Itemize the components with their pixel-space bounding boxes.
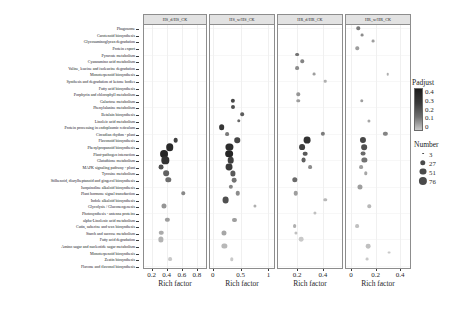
gridline-horizontal — [278, 107, 342, 108]
data-point — [158, 237, 163, 242]
y-axis-tick — [136, 69, 139, 70]
number-legend-label: 76 — [429, 177, 436, 184]
y-axis-tick — [136, 194, 139, 195]
gridline-horizontal — [210, 213, 274, 214]
y-axis-tick — [136, 240, 139, 241]
facet-panel-title: HS_w/HS_CK — [209, 14, 275, 25]
y-axis-label: Flavonoid biosynthesis — [98, 138, 135, 144]
kegg-enrichment-dotplot: PhagosomeCarotenoid biosynthesisGlycosam… — [0, 0, 463, 313]
gridline-vertical — [376, 25, 377, 268]
x-axis-tick-label: 0.2 — [371, 271, 380, 279]
data-point — [324, 198, 327, 201]
data-point — [362, 158, 367, 163]
gridline-vertical — [351, 25, 352, 268]
y-axis-label: Linoleic acid metabolism — [95, 119, 135, 125]
x-axis-title: Rich factor — [143, 279, 207, 288]
data-point — [182, 191, 185, 194]
data-point — [225, 132, 229, 136]
data-point — [362, 144, 368, 150]
gridline-horizontal — [210, 107, 274, 108]
x-axis: 00.20.4Rich factor — [345, 269, 411, 289]
y-axis-tick — [136, 234, 139, 235]
gridline-vertical — [323, 25, 324, 268]
y-axis-tick — [136, 75, 139, 76]
padjust-tick-label: 0 — [425, 124, 429, 131]
number-legend-item: 3 — [414, 149, 462, 158]
y-axis-tick — [136, 122, 139, 123]
facet-panel-title: HS_d/HS_CK — [143, 14, 207, 25]
number-legend-item: 27 — [414, 158, 462, 167]
data-point — [293, 224, 297, 228]
y-axis-label: Phenylpropanoid biosynthesis — [87, 145, 135, 151]
gridline-vertical — [182, 25, 183, 268]
gridline-horizontal — [278, 28, 342, 29]
data-point — [360, 137, 366, 143]
data-point — [387, 73, 390, 76]
y-axis-tick — [136, 267, 139, 268]
x-axis: 0.20.40.60.8Rich factor — [143, 269, 207, 289]
y-axis-label: Glycolysis / Gluconeogenesis — [88, 204, 135, 210]
y-axis-tick — [136, 102, 139, 103]
x-axis-title: Rich factor — [345, 279, 411, 288]
y-axis-tick — [136, 188, 139, 189]
y-axis-tick — [136, 108, 139, 109]
data-point — [383, 132, 387, 136]
gridline-horizontal — [278, 134, 342, 135]
x-axis-tick-label: 0 — [349, 271, 353, 279]
number-legend-dot — [422, 153, 424, 155]
plot-area — [209, 25, 275, 269]
data-point — [228, 184, 232, 188]
y-axis-tick — [136, 181, 139, 182]
y-axis-label: Galactose metabolism — [100, 99, 135, 105]
data-point — [159, 230, 164, 235]
y-axis-tick — [136, 128, 139, 129]
data-point — [303, 151, 308, 156]
padjust-colorbar — [414, 88, 423, 131]
gridline-horizontal — [278, 160, 342, 161]
data-point — [221, 230, 226, 235]
y-axis-label: MAPK signaling pathway - plant — [82, 165, 135, 171]
y-axis-tick — [136, 161, 139, 162]
y-axis-tick — [136, 155, 139, 156]
data-point — [225, 163, 232, 170]
data-point — [294, 191, 299, 196]
gridline-vertical — [241, 25, 242, 268]
x-axis-tick-label: 0.4 — [318, 271, 327, 279]
y-axis-label: Monoterpenoid biosynthesis — [90, 72, 135, 78]
number-legend-dot — [419, 176, 427, 184]
x-axis-title: Rich factor — [209, 279, 275, 288]
y-axis-label: Starch and sucrose metabolism — [86, 231, 135, 237]
data-point — [357, 184, 362, 189]
y-axis-tick — [136, 260, 139, 261]
data-point — [232, 178, 237, 183]
data-point — [308, 165, 312, 169]
y-axis-label: Tyrosine metabolism — [102, 171, 135, 177]
data-point — [301, 60, 304, 63]
number-legend-item: 51 — [414, 167, 462, 176]
facet-panel-title: HR_d/HR_CK — [277, 14, 343, 25]
data-point — [235, 138, 241, 144]
number-legend-label: 51 — [429, 168, 436, 175]
y-axis-label: Flavone and flavonol biosynthesis — [81, 264, 135, 270]
data-point — [299, 144, 305, 150]
data-point — [232, 218, 236, 222]
data-point — [368, 119, 371, 122]
data-point — [222, 196, 229, 203]
padjust-colorbar-wrap: 0.40.30.20.10 — [414, 88, 460, 133]
x-axis-tick-label: 0 — [211, 271, 215, 279]
x-axis-tick-label: 0.6 — [177, 271, 186, 279]
data-point — [312, 73, 315, 76]
data-point — [236, 191, 241, 196]
data-point — [222, 243, 227, 248]
y-axis-label: Fatty acid degradation — [100, 237, 135, 243]
gridline-vertical — [400, 25, 401, 268]
y-axis-label: Plant-pathogen interaction — [93, 152, 135, 158]
data-point — [304, 137, 311, 144]
y-axis-tick — [136, 135, 139, 136]
y-axis-label: Porphyrin and chlorophyll metabolism — [74, 92, 135, 98]
y-axis-label: Phagosome — [117, 26, 135, 32]
data-point — [388, 251, 391, 254]
number-legend-label: 27 — [429, 159, 436, 166]
gridline-horizontal — [210, 266, 274, 267]
gridline-horizontal — [210, 187, 274, 188]
